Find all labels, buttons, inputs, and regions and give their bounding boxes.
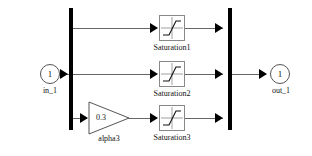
saturation3-block[interactable] xyxy=(159,105,185,131)
wire-bus-to-saturation1 xyxy=(73,28,157,29)
arrow-into-saturation1 xyxy=(150,23,158,33)
output-bus-bar[interactable] xyxy=(228,8,232,130)
triangle-gain-icon xyxy=(88,101,130,135)
saturation2-label: Saturation2 xyxy=(140,89,204,98)
arrow-into-outport xyxy=(259,69,267,79)
saturation1-block[interactable] xyxy=(159,15,185,41)
saturation-curve-icon xyxy=(160,62,184,86)
arrow-into-output-bus-top xyxy=(215,23,223,33)
inport-block[interactable]: 1 xyxy=(40,64,60,84)
arrow-into-alpha3 xyxy=(80,113,88,123)
saturation3-label: Saturation3 xyxy=(140,133,204,142)
wire-bus-to-saturation2 xyxy=(73,74,157,75)
outport-block[interactable]: 1 xyxy=(270,64,290,84)
alpha3-gain-value: 0.3 xyxy=(96,113,106,122)
saturation-curve-icon xyxy=(160,106,184,130)
arrow-into-output-bus-middle xyxy=(215,69,223,79)
saturation-curve-icon xyxy=(160,16,184,40)
arrow-into-bus xyxy=(60,69,68,79)
outport-number: 1 xyxy=(278,70,283,79)
arrow-into-saturation3 xyxy=(150,113,158,123)
inport-label: in_1 xyxy=(30,86,70,95)
arrow-into-saturation2 xyxy=(150,69,158,79)
arrow-into-output-bus-bottom xyxy=(215,113,223,123)
inport-number: 1 xyxy=(48,70,53,79)
alpha3-label: alpha3 xyxy=(84,134,134,143)
input-bus-bar[interactable] xyxy=(69,8,73,130)
block-diagram-canvas: 1 in_1 Saturation1 Saturation2 xyxy=(0,0,312,156)
saturation2-block[interactable] xyxy=(159,61,185,87)
outport-label: out_1 xyxy=(262,86,300,95)
alpha3-gain-block[interactable] xyxy=(88,101,130,135)
saturation1-label: Saturation1 xyxy=(140,43,204,52)
